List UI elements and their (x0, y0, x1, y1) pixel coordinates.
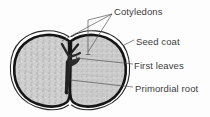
label-seed-coat: Seed coat (136, 36, 180, 47)
label-first-leaves: First leaves (134, 60, 184, 71)
seed-diagram-figure: Cotyledons Seed coat First leaves Primor… (0, 0, 210, 117)
primordial-root-shape (67, 62, 68, 92)
seed-cross-section-drawing (0, 0, 210, 117)
radicle-tip (65, 90, 69, 95)
label-primordial-root: Primordial root (135, 83, 198, 94)
leader-seed-coat (124, 40, 134, 45)
label-cotyledons: Cotyledons (114, 6, 163, 17)
